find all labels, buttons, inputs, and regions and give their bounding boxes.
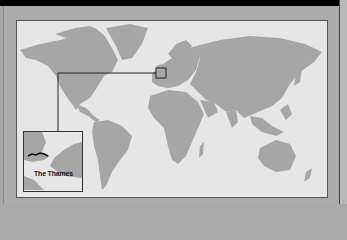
- thames-inset: The Thames: [23, 131, 83, 192]
- south-america: [92, 120, 132, 190]
- africa: [148, 90, 204, 164]
- inset-label: The Thames: [34, 170, 73, 177]
- inset-map: [24, 132, 82, 191]
- north-america: [20, 28, 118, 110]
- australia: [258, 140, 296, 172]
